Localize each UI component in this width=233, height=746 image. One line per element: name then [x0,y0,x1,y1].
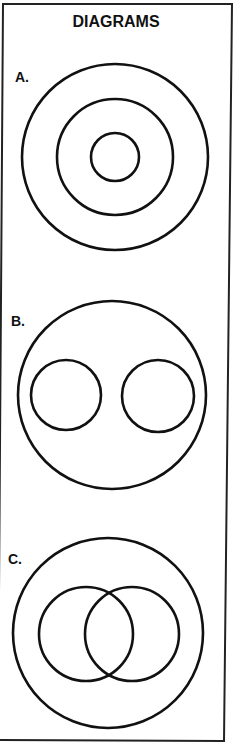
diagrams-canvas: DIAGRAMS A. B. C. [0,0,233,746]
diagram-label: C. [8,551,22,567]
outer-circle [22,64,208,250]
diagram-a: A. [15,64,208,250]
inner-circle [57,99,173,215]
inner-circle [122,360,194,432]
diagram-c: C. [8,538,203,728]
inner-circle [91,133,139,181]
diagram-b: B. [11,301,206,489]
diagram-label: A. [15,69,29,85]
page-title: DIAGRAMS [72,13,159,30]
outer-circle [18,301,206,489]
diagram-label: B. [11,313,25,329]
inner-circle [31,360,101,430]
outer-circle [13,538,203,728]
